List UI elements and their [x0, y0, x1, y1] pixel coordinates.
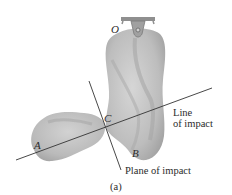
label-line-of-impact-1: Line [173, 107, 193, 118]
label-point-o: O [111, 23, 119, 35]
figure-caption: (a) [110, 181, 122, 193]
label-line-of-impact-2: of impact [173, 118, 213, 129]
impact-diagram: O C A B Line of impact Plane of impact (… [0, 0, 232, 195]
pivot-pin-icon [136, 28, 140, 32]
label-point-a: A [33, 139, 41, 151]
label-point-b: B [132, 147, 139, 159]
label-point-c: C [104, 112, 112, 124]
label-plane-of-impact: Plane of impact [125, 165, 191, 176]
